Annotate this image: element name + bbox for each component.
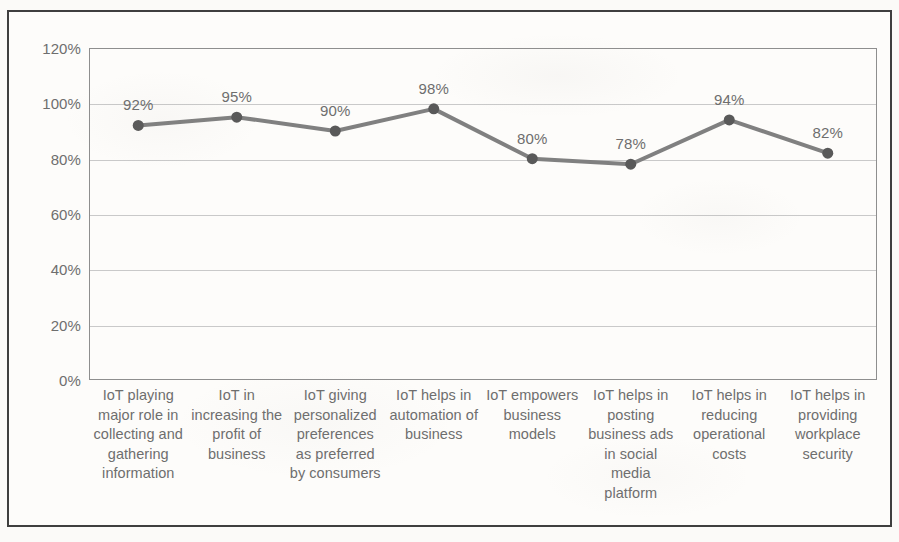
data-point-marker — [330, 126, 341, 137]
y-tick-label: 80% — [11, 150, 81, 167]
data-point-marker — [428, 103, 439, 114]
x-axis: IoT playing major role in collecting and… — [89, 386, 877, 531]
data-label: 98% — [419, 80, 449, 97]
data-point-marker — [724, 114, 735, 125]
y-tick-label: 120% — [11, 40, 81, 57]
x-axis-category-label: IoT giving personalized preferences as p… — [286, 386, 385, 531]
data-point-marker — [625, 159, 636, 170]
data-label: 95% — [222, 88, 252, 105]
data-label: 80% — [517, 130, 547, 147]
data-point-marker — [231, 112, 242, 123]
x-axis-category-label: IoT helps in providing workplace securit… — [779, 386, 878, 531]
x-axis-category-label: IoT empowers business models — [483, 386, 582, 531]
y-tick-label: 0% — [11, 372, 81, 389]
data-label: 82% — [813, 124, 843, 141]
data-label: 92% — [123, 96, 153, 113]
data-point-marker — [822, 148, 833, 159]
y-axis: 0%20%40%60%80%100%120% — [9, 48, 81, 380]
x-axis-category-label: IoT helps in posting business ads in soc… — [582, 386, 681, 531]
data-point-marker — [527, 153, 538, 164]
data-point-marker — [133, 120, 144, 131]
data-label: 90% — [320, 102, 350, 119]
chart-frame: 0%20%40%60%80%100%120% 92%95%90%98%80%78… — [7, 10, 892, 527]
x-axis-category-label: IoT in increasing the profit of business — [188, 386, 287, 531]
x-axis-category-label: IoT helps in automation of business — [385, 386, 484, 531]
y-tick-label: 20% — [11, 316, 81, 333]
data-label: 94% — [714, 91, 744, 108]
x-axis-category-label: IoT helps in reducing operational costs — [680, 386, 779, 531]
data-label: 78% — [616, 135, 646, 152]
line-series — [89, 48, 877, 380]
series-markers — [133, 103, 834, 169]
y-tick-label: 60% — [11, 206, 81, 223]
y-tick-label: 40% — [11, 261, 81, 278]
x-axis-category-label: IoT playing major role in collecting and… — [89, 386, 188, 531]
y-tick-label: 100% — [11, 95, 81, 112]
